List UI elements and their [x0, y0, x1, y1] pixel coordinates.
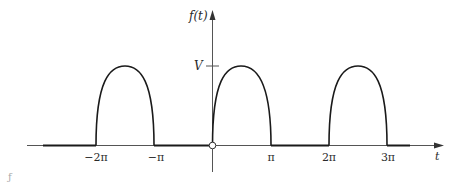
y-axis-label: f(t): [188, 9, 208, 23]
x-axis-label: t: [435, 150, 440, 163]
tick-label: 3π: [381, 151, 395, 164]
v-level-label: V: [194, 59, 204, 73]
half-wave-rectified-plot: f(t) V t −2π −π π 2π 3π ƒ: [0, 0, 461, 185]
f-axis-arrow-icon: [210, 10, 216, 20]
tick-label: 2π: [322, 151, 336, 164]
origin-marker-icon: [209, 142, 216, 149]
pulse-2pi: [329, 66, 387, 146]
tick-label: −π: [148, 151, 164, 164]
pulse-neg2pi: [96, 66, 154, 146]
tick-label: −2π: [84, 151, 107, 164]
pulse-0: [213, 66, 272, 146]
stray-mark: ƒ: [7, 171, 13, 182]
t-axis-arrow-icon: [434, 143, 444, 149]
tick-label: π: [267, 151, 274, 164]
signal-pulses: [96, 66, 387, 146]
